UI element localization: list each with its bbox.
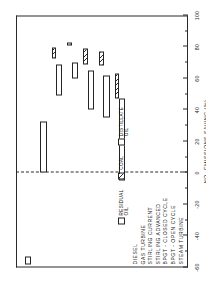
axis-tick	[185, 250, 188, 251]
bar-oil	[72, 62, 78, 78]
axis-tick	[185, 187, 188, 188]
axis-tick	[185, 93, 188, 94]
axis-tick-label: 80	[194, 43, 200, 49]
category-label: DIESEL	[132, 243, 138, 264]
axis-tick	[183, 109, 188, 110]
axis-tick	[185, 156, 188, 157]
axis-tick	[183, 140, 188, 141]
frame-left-border	[16, 266, 188, 267]
bar-oil	[56, 64, 62, 96]
category-label: BPGT - OPEN CYCLE	[170, 204, 176, 264]
category-label: STEAM TURBINE	[178, 216, 184, 264]
axis-tick-label: -60	[194, 263, 200, 271]
legend-entry: DISTILLATE OIL	[118, 106, 129, 145]
category-label: STIRLING CURRENT	[147, 206, 153, 264]
axis-tick	[185, 219, 188, 220]
legend-label: RESIDUAL OIL	[118, 189, 129, 215]
bar-oil	[103, 75, 109, 118]
legend-label: DISTILLATE OIL	[118, 106, 129, 135]
legend-entry: COAL	[118, 155, 125, 179]
bar-oil	[40, 121, 46, 173]
axis-tick	[185, 124, 188, 125]
axis-tick	[183, 235, 188, 236]
rotated-figure: DIESELGAS TURBINESTIRLING CURRENTSTIRLIN…	[0, 0, 206, 289]
category-label: STIRLING ADVANCED	[155, 203, 161, 264]
bar-coal	[52, 47, 57, 58]
axis-tick-label: 0	[194, 171, 200, 174]
axis-tick	[183, 266, 188, 267]
bar-oil	[88, 70, 94, 109]
legend-swatch	[118, 138, 125, 145]
bar-coal	[99, 51, 104, 65]
category-label: BPGT - CLOSED CYCLE	[162, 197, 168, 264]
bar-coal	[83, 48, 88, 64]
axis-tick-label: 100	[194, 10, 200, 20]
axis-tick	[183, 203, 188, 204]
legend: RESIDUAL OILCOALDISTILLATE OIL	[118, 106, 129, 224]
axis-tick	[185, 61, 188, 62]
axis-tick	[183, 172, 188, 173]
axis-tick-label: -40	[194, 231, 200, 239]
axis-tick	[183, 77, 188, 78]
axis-tick	[183, 46, 188, 47]
legend-swatch	[118, 172, 125, 179]
legend-label: COAL	[118, 155, 124, 169]
axis-title: NOx EMISSIONS SAVING (%)	[203, 99, 206, 183]
axis-tick	[183, 14, 188, 15]
category-label: GAS TURBINE	[140, 224, 146, 264]
axis-tick-label: 60	[194, 75, 200, 81]
axis-tick-label: -20	[194, 200, 200, 208]
axis-tick	[185, 30, 188, 31]
axis-tick-label: 40	[194, 106, 200, 112]
legend-entry: RESIDUAL OIL	[118, 189, 129, 225]
axis-tick-label: 20	[194, 138, 200, 144]
plot-frame: DIESELGAS TURBINESTIRLING CURRENTSTIRLIN…	[16, 15, 188, 267]
legend-swatch	[118, 217, 125, 224]
frame-top-border	[16, 15, 17, 267]
bar-oil	[25, 256, 31, 264]
frame-right-border	[16, 15, 188, 16]
bar-coal	[67, 42, 72, 45]
bar-coal	[115, 73, 120, 98]
